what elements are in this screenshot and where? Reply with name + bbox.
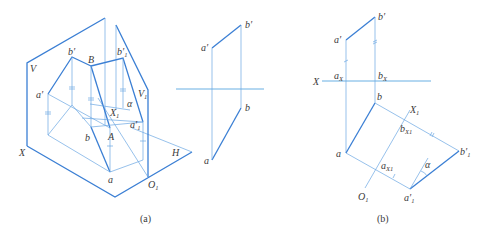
projector (48, 135, 110, 172)
label-v: V (30, 63, 38, 74)
label-b1-prime: b′1 (117, 46, 127, 58)
label-a-prime: a′ (36, 89, 44, 100)
label-a: a (204, 155, 209, 166)
figure-a-pictorial: V V1 H X X1 O1 B A b′ a′ b′1 a′1 b a α (18, 18, 192, 197)
segment-a-b (346, 103, 375, 153)
label-b: b (245, 102, 250, 113)
label-b-prime: b′ (378, 11, 386, 22)
segment-a-b (212, 108, 241, 160)
label-b: b (377, 91, 382, 102)
label-a-x: aX (334, 70, 344, 82)
projector (110, 160, 143, 172)
equal-ticks (344, 40, 434, 178)
label-a-prime: a′ (201, 42, 209, 53)
segment-a-prime-b-prime (48, 57, 91, 94)
label-b-x: bX (378, 70, 388, 82)
label-o1: O1 (358, 191, 368, 203)
x1-axis (98, 98, 148, 177)
label-b-x1: bX1 (400, 123, 412, 135)
label-v1: V1 (138, 88, 147, 100)
label-a-prime: a′ (334, 34, 342, 45)
figure-a-projection: a′ b′ b a (176, 19, 264, 166)
label-a: a (336, 148, 341, 159)
label-a-x1: aX1 (381, 160, 393, 172)
segment-a-prime-b-prime (346, 17, 375, 40)
label-x: X (312, 76, 320, 87)
projection-diagram: V V1 H X X1 O1 B A b′ a′ b′1 a′1 b a α a… (0, 0, 484, 237)
h-plane-back-edge (132, 128, 192, 152)
label-b-prime: b′ (68, 46, 76, 57)
label-b-prime: b′ (245, 19, 253, 30)
label-a: a (108, 174, 113, 185)
label-A: A (107, 131, 115, 142)
label-alpha: α (425, 159, 431, 170)
label-o1: O1 (148, 179, 158, 191)
figure-b: X a′ b′ aX bX b a X1 O1 bX1 aX1 b′1 a′1 … (312, 11, 470, 204)
label-x: X (18, 147, 26, 158)
projector-a-a1 (346, 153, 410, 189)
label-a1-prime: a′1 (130, 119, 140, 131)
segment-a-prime-b-prime (212, 25, 241, 48)
label-b1-prime: b′1 (460, 146, 470, 158)
label-b: b (85, 132, 90, 143)
label-alpha: α (127, 98, 133, 109)
label-h: H (171, 147, 180, 158)
projector (48, 105, 72, 135)
label-B: B (88, 54, 94, 65)
label-x1: X1 (409, 104, 419, 116)
caption-a: (a) (140, 213, 151, 225)
label-a1-prime: a′1 (404, 192, 414, 204)
caption-b: (b) (377, 213, 389, 225)
angle-arc (421, 171, 427, 176)
segment-a1-prime-b1-prime (410, 151, 459, 189)
label-x1: X1 (109, 107, 119, 119)
